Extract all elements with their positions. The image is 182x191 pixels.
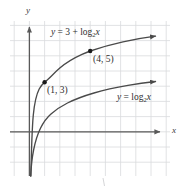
point-label-4-5: (4, 5) [93, 55, 114, 65]
point-label-1-3: (1, 3) [47, 86, 68, 96]
logarithm-graph-figure: y x y = 3 + log2x y = log2x (1, 3) (4, 5… [0, 0, 182, 191]
equation-1-base: 2 [92, 31, 95, 38]
equation-1-argument: x [96, 27, 100, 37]
point-marker-4-5 [88, 49, 92, 53]
equation-2-operator: = log [121, 92, 143, 102]
bottom-tick-artifact [103, 178, 105, 186]
equation-label-log: y = log2x [117, 93, 151, 103]
equation-1-operator: = 3 + log [55, 27, 92, 37]
equation-2-argument: x [147, 92, 151, 102]
equation-2-base: 2 [143, 96, 146, 103]
y-axis-label: y [26, 6, 30, 15]
x-axis-label: x [172, 126, 176, 135]
equation-label-shifted-log: y = 3 + log2x [51, 28, 100, 38]
point-marker-1-3 [42, 80, 46, 84]
